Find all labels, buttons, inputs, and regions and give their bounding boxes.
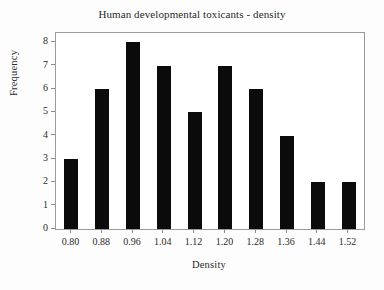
x-axis-tick-mark — [316, 229, 317, 233]
plot-inner — [56, 33, 364, 229]
x-axis-tick-label: 1.28 — [246, 235, 264, 248]
y-axis-tick-label: 5 — [43, 104, 48, 117]
y-axis-tick-label: 3 — [43, 151, 48, 164]
x-axis-tick-mark — [162, 229, 163, 233]
x-axis-tick-mark — [193, 229, 194, 233]
chart-figure: Human developmental toxicants - density … — [0, 0, 384, 290]
x-axis-tick-label: 0.80 — [62, 235, 80, 248]
y-axis-tick-label: 8 — [43, 34, 48, 47]
y-axis-tick-label: 0 — [43, 221, 48, 234]
x-axis-tick-mark — [347, 229, 348, 233]
bar — [249, 89, 263, 229]
bar — [126, 42, 140, 229]
x-axis-tick-mark — [255, 229, 256, 233]
x-axis-title: Density — [55, 259, 363, 270]
y-axis-tick-label: 6 — [43, 81, 48, 94]
y-axis-ticks: 012345678 — [0, 32, 55, 228]
x-axis-tick-label: 1.52 — [339, 235, 357, 248]
x-axis-tick-mark — [224, 229, 225, 233]
bar — [95, 89, 109, 229]
x-axis-tick-mark — [132, 229, 133, 233]
bar — [188, 112, 202, 229]
y-axis-tick-label: 4 — [43, 128, 48, 141]
bar — [218, 66, 232, 229]
bar — [342, 182, 356, 229]
x-axis-tick-label: 1.44 — [308, 235, 326, 248]
x-axis-ticks: 0.800.880.961.041.121.201.281.361.441.52 — [55, 229, 363, 253]
bar — [157, 66, 171, 229]
x-axis-tick-mark — [101, 229, 102, 233]
bar — [280, 136, 294, 229]
x-axis-tick-label: 1.04 — [154, 235, 172, 248]
bar — [64, 159, 78, 229]
x-axis-tick-mark — [70, 229, 71, 233]
x-axis-tick-label: 0.88 — [92, 235, 110, 248]
x-axis-tick-label: 0.96 — [123, 235, 141, 248]
y-axis-tick-label: 2 — [43, 174, 48, 187]
x-axis-tick-mark — [286, 229, 287, 233]
bars-layer — [56, 33, 364, 229]
chart-title: Human developmental toxicants - density — [0, 8, 384, 20]
y-axis-tick-label: 1 — [43, 198, 48, 211]
bar — [311, 182, 325, 229]
y-axis-tick-label: 7 — [43, 58, 48, 71]
plot-area — [55, 32, 365, 230]
x-axis-tick-label: 1.36 — [277, 235, 295, 248]
x-axis-tick-label: 1.12 — [185, 235, 203, 248]
x-axis-tick-label: 1.20 — [216, 235, 234, 248]
